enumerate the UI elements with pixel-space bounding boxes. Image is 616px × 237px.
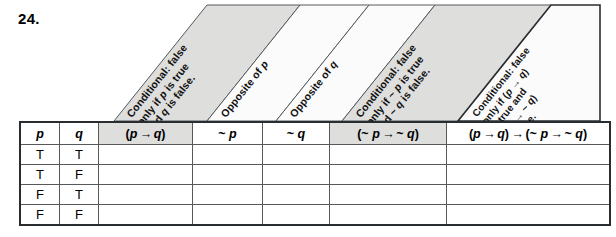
cell-q: T <box>60 185 99 205</box>
truth-table-header-row: p q (p → q) ~ p ~ q (~ p → ~ q) <box>20 122 610 145</box>
cell-full-expression[interactable] <box>447 145 611 165</box>
cell-p-implies-q[interactable] <box>99 165 193 185</box>
worksheet-figure: 24. Conditional: false only if p is true… <box>0 0 616 237</box>
column-header-not-p: ~ p <box>193 122 263 145</box>
cell-notp-implies-notq[interactable] <box>330 145 447 165</box>
cell-p: F <box>20 205 60 226</box>
cell-p-implies-q[interactable] <box>99 205 193 226</box>
column-header-notp-implies-notq: (~ p → ~ q) <box>330 122 447 145</box>
cell-full-expression[interactable] <box>447 205 611 226</box>
column-header-p-implies-q: (p → q) <box>99 122 193 145</box>
cell-not-q[interactable] <box>263 185 330 205</box>
cell-not-p[interactable] <box>193 185 263 205</box>
cell-not-p[interactable] <box>193 165 263 185</box>
truth-table-body: T T T F F T <box>20 145 610 226</box>
cell-q: F <box>60 165 99 185</box>
cell-p-implies-q[interactable] <box>99 185 193 205</box>
cell-not-q[interactable] <box>263 205 330 226</box>
cell-p: F <box>20 185 60 205</box>
slanted-header-band: Conditional: false only if p is true and… <box>0 0 616 126</box>
cell-full-expression[interactable] <box>447 165 611 185</box>
cell-full-expression[interactable] <box>447 185 611 205</box>
cell-q: T <box>60 145 99 165</box>
table-row: T T <box>20 145 610 165</box>
column-header-p: p <box>20 122 60 145</box>
cell-p: T <box>20 165 60 185</box>
table-row: F F <box>20 205 610 226</box>
column-header-full-expression: (p → q) → (~ p → ~ q) <box>447 122 611 145</box>
column-header-not-q: ~ q <box>263 122 330 145</box>
cell-notp-implies-notq[interactable] <box>330 165 447 185</box>
cell-q: F <box>60 205 99 226</box>
cell-not-q[interactable] <box>263 165 330 185</box>
table-row: T F <box>20 165 610 185</box>
table-row: F T <box>20 185 610 205</box>
cell-not-p[interactable] <box>193 205 263 226</box>
cell-p-implies-q[interactable] <box>99 145 193 165</box>
cell-not-p[interactable] <box>193 145 263 165</box>
cell-notp-implies-notq[interactable] <box>330 205 447 226</box>
cell-notp-implies-notq[interactable] <box>330 185 447 205</box>
cell-not-q[interactable] <box>263 145 330 165</box>
column-header-q: q <box>60 122 99 145</box>
cell-p: T <box>20 145 60 165</box>
truth-table: p q (p → q) ~ p ~ q (~ p → ~ q) <box>19 121 611 226</box>
